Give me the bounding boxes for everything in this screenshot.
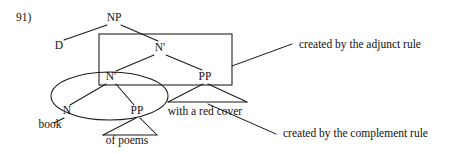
terminal-label-with-a-red-cover: with a red cover: [168, 105, 243, 117]
annotation-adjunct-rule: created by the adjunct rule: [299, 38, 421, 51]
node-label-nbar-low: N': [106, 70, 116, 82]
syntax-tree-figure: NP D N' N' PP N PP book of poems with a …: [0, 0, 449, 153]
node-label-pp-low: PP: [131, 104, 144, 116]
annotations: created by the adjunct rule created by t…: [283, 38, 428, 140]
node-label-n: N: [63, 104, 72, 116]
tree-edges: [54, 25, 247, 135]
node-label-d: D: [55, 39, 63, 51]
leader-lines: [208, 44, 292, 134]
syntax-tree-canvas: NP D N' N' PP N PP book of poems with a …: [0, 0, 449, 153]
edge-nbar-high-to-nbar-low: [116, 55, 154, 71]
edge-nbar-low-to-pp-low: [116, 84, 134, 105]
edge-nbar-high-to-pp-high: [166, 55, 202, 70]
edge-np-to-d: [64, 25, 107, 40]
terminal-label-book: book: [39, 118, 62, 130]
edge-pp-high-triangle-left: [168, 84, 203, 102]
item-number: 91): [16, 11, 32, 24]
edge-pp-high-triangle-right: [208, 84, 247, 102]
leader-line-adjunct: [232, 44, 292, 66]
edge-pp-low-triangle-left: [103, 118, 136, 135]
terminal-label-of-poems: of poems: [106, 134, 149, 147]
node-label-np: NP: [107, 11, 122, 23]
edge-nbar-low-to-n: [70, 84, 106, 105]
edge-np-to-nbar-high: [121, 25, 158, 41]
adjunct-box: [99, 34, 232, 85]
edge-pp-low-triangle-right: [140, 118, 157, 135]
node-label-pp-high: PP: [199, 70, 212, 82]
annotation-complement-rule: created by the complement rule: [283, 127, 428, 140]
node-label-nbar-high: N': [155, 41, 165, 53]
